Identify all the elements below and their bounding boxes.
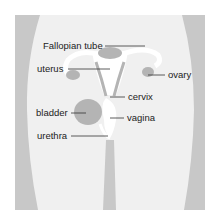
ovary-left	[66, 70, 80, 80]
label-fallopian-tube: Fallopian tube	[43, 41, 103, 51]
right-hip-shading	[182, 15, 205, 210]
label-urethra: urethra	[37, 131, 67, 141]
ovary-right	[142, 67, 154, 77]
bladder-shape	[74, 99, 102, 125]
leg-gap-shading	[103, 140, 116, 210]
anatomy-illustration	[0, 0, 217, 223]
label-cervix: cervix	[128, 92, 153, 102]
label-uterus: uterus	[37, 64, 63, 74]
label-bladder: bladder	[36, 108, 68, 118]
label-vagina: vagina	[127, 113, 155, 123]
label-ovary: ovary	[168, 70, 191, 80]
